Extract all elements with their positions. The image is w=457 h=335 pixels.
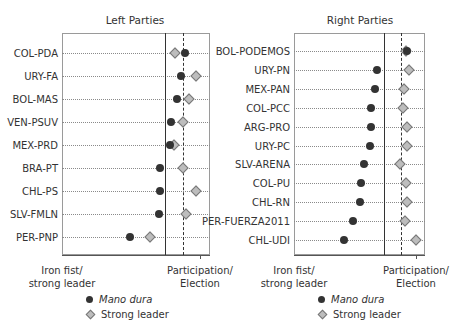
category-label: SLV-FMLN [10,209,58,220]
mano-dura-marker [357,179,365,187]
mano-dura-marker [366,142,374,150]
category-label: MEX-PRD [12,140,58,151]
left-axis-label-iron-fist: Iron fist/strong leader [29,264,96,290]
left-legend: Mano dura Strong leader [86,292,169,322]
left-axis-label-participation: Participation/Election [167,264,233,290]
diamond-icon [86,310,96,320]
diamond-icon [318,310,328,320]
mano-dura-marker [360,160,368,168]
mano-dura-marker [173,95,181,103]
right-x-axis-tick [416,255,417,259]
mano-dura-marker [403,47,411,55]
mano-dura-marker [349,217,357,225]
dot-icon [318,296,325,303]
right-legend: Mano dura Strong leader [318,292,401,322]
gridline [62,191,210,192]
mano-dura-marker [177,72,185,80]
category-label: URY-PC [255,140,290,151]
left-plot-area [62,33,210,255]
category-label: PER-FUERZA2011 [202,216,290,227]
category-label: PER-PNP [16,232,58,243]
category-label: CHL-PS [22,186,58,197]
category-label: BOL-PODEMOS [216,46,290,57]
right-x-axis [294,255,425,256]
left-x-axis [62,255,210,256]
category-label: CHL-UDI [249,235,290,246]
mano-dura-marker [373,66,381,74]
left-x-axis-tick [200,255,201,259]
left-panel-title: Left Parties [106,14,165,26]
legend-item-mano-dura: Mano dura [86,292,169,307]
mano-dura-marker [340,236,348,244]
mano-dura-marker [367,123,375,131]
category-label: SLV-ARENA [235,159,290,170]
mano-dura-marker [167,118,175,126]
legend-item-mano-dura: Mano dura [318,292,401,307]
category-label: CHL-RN [252,197,290,208]
mano-dura-marker [155,210,163,218]
mano-dura-marker [367,104,375,112]
category-label: VEN-PSUV [7,117,58,128]
gridline [62,76,210,77]
category-label: MEX-PAN [245,83,290,94]
category-label: BRA-PT [22,163,58,174]
mano-dura-marker [356,198,364,206]
category-label: BOL-MAS [13,94,58,105]
category-label: COL-PCC [246,102,290,113]
category-label: URY-PN [254,64,290,75]
right-axis-label-participation: Participation/Election [383,264,449,290]
mano-dura-marker [181,49,189,57]
gridline [62,237,210,238]
mano-dura-marker [126,233,134,241]
legend-item-strong-leader: Strong leader [318,307,401,322]
mano-dura-marker [371,85,379,93]
category-label: COL-PU [253,178,290,189]
right-panel-title: Right Parties [327,14,394,26]
gridline [294,240,425,241]
gridline [62,145,210,146]
dot-icon [86,296,93,303]
category-label: COL-PDA [14,48,58,59]
mano-dura-marker [156,187,164,195]
reference-line-dashed [183,33,184,255]
category-label: URY-FA [24,71,58,82]
category-label: ARG-PRO [244,121,290,132]
mano-dura-marker [166,141,174,149]
reference-line-solid [384,33,385,255]
legend-item-strong-leader: Strong leader [86,307,169,322]
right-axis-label-iron-fist: Iron fist/strong leader [261,264,328,290]
mano-dura-marker [156,164,164,172]
